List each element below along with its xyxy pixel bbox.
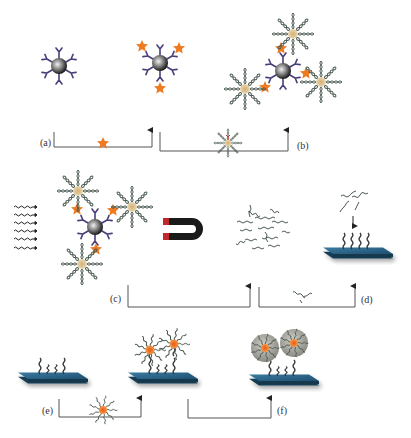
bead-particle-complex-b (224, 13, 342, 110)
captured-dna-with-nanoparticles (135, 328, 190, 374)
panel-label-d: (d) (361, 294, 373, 306)
captured-dna-e (39, 358, 65, 374)
star-labeled-bead (136, 40, 185, 94)
panel-label-c: (c) (110, 293, 121, 305)
step-d-reagent-dna-icon (293, 292, 312, 303)
nanoparticle-bound-surface (128, 368, 198, 383)
panel-label-f: (f) (277, 405, 287, 417)
antibody-bead (42, 48, 76, 84)
silver-enhanced-surface (249, 370, 319, 385)
step-b-reagent-particle-icon (214, 129, 242, 157)
panel-label-b: (b) (297, 140, 309, 152)
bead-particle-complex-c (57, 170, 153, 285)
step-f-arrow (188, 398, 271, 418)
step-c-arrow (128, 285, 250, 307)
diagram-canvas: (a) (b) (0, 0, 411, 438)
step-d-arrow (259, 286, 355, 307)
heat-waves-icon (14, 206, 37, 250)
capture-surface-e (18, 368, 88, 383)
incoming-dna-strands (340, 191, 368, 212)
surface-probes-d (343, 233, 369, 249)
silver-enhanced-particles (251, 329, 308, 376)
panel-label-a: (a) (40, 137, 51, 149)
step-e-reagent-nanoparticle-icon (89, 396, 117, 425)
capture-surface-d (323, 243, 393, 258)
magnet-icon (163, 218, 203, 240)
released-dna-cluster (236, 205, 290, 249)
panel-label-e: (e) (42, 405, 53, 417)
